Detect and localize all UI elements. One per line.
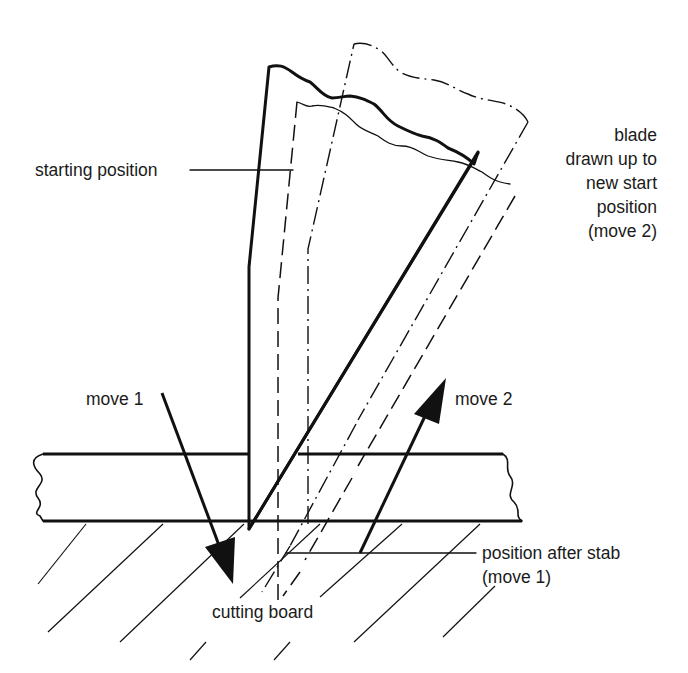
label-cutting-board: cutting board — [212, 602, 313, 622]
blade-starting-position — [249, 66, 478, 529]
svg-text:(move 1): (move 1) — [482, 567, 551, 587]
cutting-board-hatching — [38, 524, 495, 660]
food-slab — [34, 454, 522, 521]
label-starting-position: starting position — [35, 160, 158, 180]
label-move-2: move 2 — [455, 389, 512, 409]
knife-stab-diagram: starting position blade drawn up to new … — [0, 0, 688, 673]
label-move-1: move 1 — [86, 389, 143, 409]
svg-text:blade: blade — [614, 125, 657, 145]
move2-arrow — [360, 378, 446, 553]
label-position-after-stab: position after stab (move 1) — [482, 543, 620, 587]
label-blade-drawn-up: blade drawn up to new start position (mo… — [566, 125, 658, 241]
svg-text:position: position — [597, 197, 657, 217]
svg-text:(move 2): (move 2) — [588, 221, 657, 241]
svg-text:drawn up to: drawn up to — [566, 149, 657, 169]
svg-text:position after stab: position after stab — [482, 543, 620, 563]
svg-text:new start: new start — [586, 173, 657, 193]
move1-arrow — [162, 393, 235, 584]
